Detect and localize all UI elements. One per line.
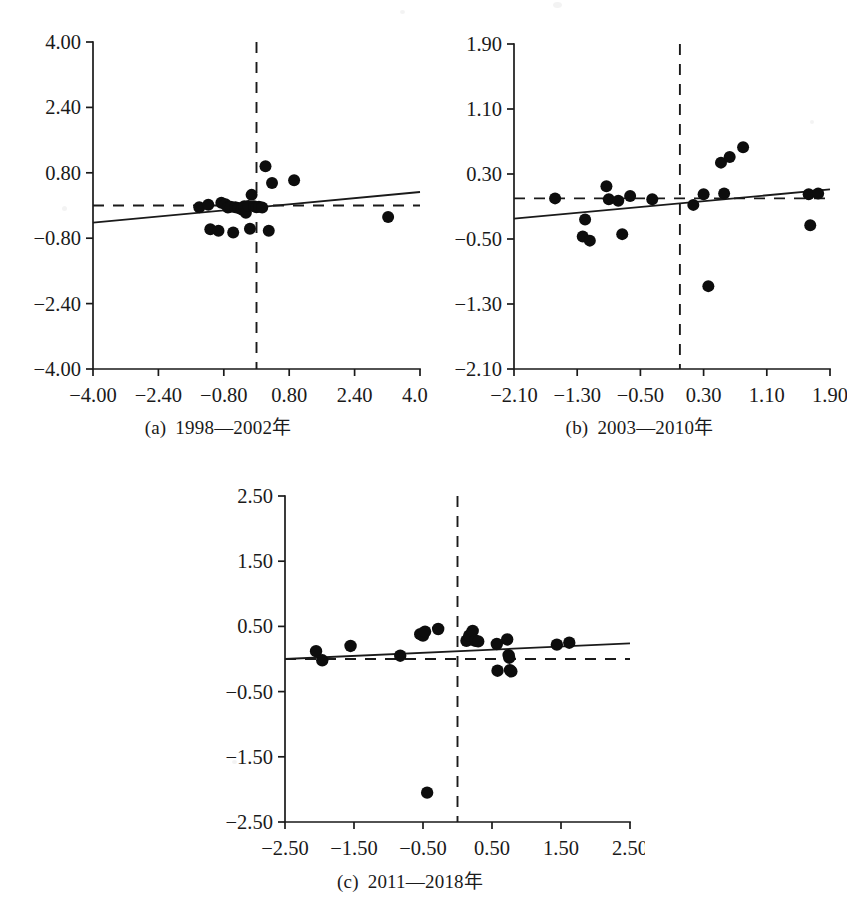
- data-point: [501, 633, 513, 645]
- svg-text:−4.00: −4.00: [34, 358, 81, 380]
- svg-text:0.30: 0.30: [686, 384, 722, 406]
- data-point: [227, 226, 239, 238]
- panel-c: −2.50−1.50−0.500.501.502.50−2.50−1.50−0.…: [175, 470, 645, 910]
- svg-text:−0.50: −0.50: [226, 681, 273, 703]
- data-point: [266, 177, 278, 189]
- data-point: [505, 665, 517, 677]
- data-point: [616, 228, 628, 240]
- svg-text:−2.40: −2.40: [34, 293, 81, 315]
- data-point: [702, 280, 714, 292]
- svg-text:1.90: 1.90: [466, 33, 502, 55]
- panel-b-caption-text: 2003—2010年: [597, 417, 713, 438]
- data-point: [421, 786, 433, 798]
- panel-b-plot: −2.10−1.30−0.500.301.101.90−2.10−1.30−0.…: [432, 14, 847, 414]
- data-point: [288, 174, 300, 186]
- svg-text:−0.50: −0.50: [617, 384, 664, 406]
- data-point: [212, 225, 224, 237]
- data-point: [563, 637, 575, 649]
- svg-text:2.40: 2.40: [45, 96, 81, 118]
- scan-speckle: [553, 2, 562, 8]
- data-point: [472, 635, 484, 647]
- data-point: [246, 189, 258, 201]
- data-point: [737, 141, 749, 153]
- svg-text:1.10: 1.10: [466, 98, 502, 120]
- svg-text:−2.50: −2.50: [226, 811, 273, 833]
- panel-a-plot: −4.00−2.40−0.800.802.404.00−4.00−2.40−0.…: [8, 14, 428, 414]
- svg-text:0.30: 0.30: [466, 163, 502, 185]
- figure-root: −4.00−2.40−0.800.802.404.00−4.00−2.40−0.…: [0, 0, 851, 923]
- data-point: [263, 225, 275, 237]
- svg-text:0.80: 0.80: [45, 162, 81, 184]
- svg-text:−0.80: −0.80: [34, 227, 81, 249]
- data-point: [600, 180, 612, 192]
- data-point: [259, 160, 271, 172]
- data-point: [812, 188, 824, 200]
- data-point: [551, 638, 563, 650]
- panel-b: −2.10−1.30−0.500.301.101.90−2.10−1.30−0.…: [432, 14, 847, 444]
- data-point: [698, 188, 710, 200]
- data-point: [724, 151, 736, 163]
- svg-text:0.80: 0.80: [271, 384, 307, 406]
- panel-c-plot: −2.50−1.50−0.500.501.502.50−2.50−1.50−0.…: [175, 470, 645, 868]
- svg-text:−0.80: −0.80: [200, 384, 247, 406]
- svg-text:−0.50: −0.50: [455, 228, 502, 250]
- panel-c-caption: (c)2011—2018年: [175, 866, 645, 893]
- svg-text:0.50: 0.50: [237, 615, 273, 637]
- svg-text:−1.50: −1.50: [330, 837, 377, 859]
- svg-text:4.00: 4.00: [402, 384, 428, 406]
- svg-text:−2.50: −2.50: [261, 837, 308, 859]
- svg-text:−0.50: −0.50: [399, 837, 446, 859]
- svg-text:1.10: 1.10: [749, 384, 785, 406]
- svg-text:−4.00: −4.00: [69, 384, 116, 406]
- svg-text:4.00: 4.00: [45, 31, 81, 53]
- data-point: [244, 223, 256, 235]
- svg-text:1.50: 1.50: [543, 837, 579, 859]
- data-point: [718, 188, 730, 200]
- panel-b-caption: (b)2003—2010年: [432, 412, 847, 439]
- data-point: [584, 235, 596, 247]
- data-point: [344, 640, 356, 652]
- svg-text:1.50: 1.50: [237, 550, 273, 572]
- data-point: [687, 199, 699, 211]
- data-point: [316, 654, 328, 666]
- panel-a-caption: (a)1998—2002年: [8, 412, 428, 439]
- data-point: [804, 219, 816, 231]
- svg-text:2.50: 2.50: [612, 837, 645, 859]
- panel-c-caption-tag: (c): [337, 871, 359, 892]
- svg-text:2.40: 2.40: [337, 384, 373, 406]
- data-point: [256, 202, 268, 214]
- data-point: [491, 665, 503, 677]
- data-point: [419, 625, 431, 637]
- svg-text:1.90: 1.90: [812, 384, 847, 406]
- data-point: [382, 211, 394, 223]
- data-point: [646, 193, 658, 205]
- svg-text:−2.10: −2.10: [455, 358, 502, 380]
- svg-text:−2.10: −2.10: [490, 384, 537, 406]
- panel-c-caption-text: 2011—2018年: [368, 871, 483, 892]
- panel-a-caption-text: 1998—2002年: [175, 417, 291, 438]
- data-point: [394, 650, 406, 662]
- panel-a-caption-tag: (a): [145, 417, 167, 438]
- panel-b-caption-tag: (b): [566, 417, 589, 438]
- data-point: [202, 199, 214, 211]
- data-point: [612, 195, 624, 207]
- svg-text:−1.50: −1.50: [226, 746, 273, 768]
- svg-text:−1.30: −1.30: [455, 293, 502, 315]
- svg-text:−2.40: −2.40: [135, 384, 182, 406]
- data-point: [432, 623, 444, 635]
- svg-text:0.50: 0.50: [474, 837, 510, 859]
- data-point: [624, 190, 636, 202]
- data-point: [503, 651, 515, 663]
- panel-a: −4.00−2.40−0.800.802.404.00−4.00−2.40−0.…: [8, 14, 428, 444]
- svg-text:2.50: 2.50: [237, 485, 273, 507]
- svg-text:−1.30: −1.30: [553, 384, 600, 406]
- data-point: [549, 192, 561, 204]
- data-point: [579, 214, 591, 226]
